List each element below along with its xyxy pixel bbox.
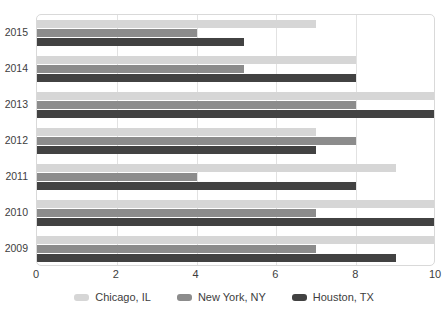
- x-tick-label-4: 4: [193, 268, 199, 280]
- bar-2013-houston-tx: [37, 110, 435, 118]
- plot-area: [36, 14, 435, 266]
- bar-2015-houston-tx: [37, 38, 244, 46]
- bar-2010-houston-tx: [37, 218, 435, 226]
- bar-2013-new-york-ny: [37, 101, 356, 109]
- legend-swatch-icon: [177, 294, 192, 301]
- bar-group-2014: [37, 56, 434, 82]
- bar-chart: 2015201420132012201120102009 0246810 Chi…: [0, 0, 448, 317]
- chart-title: [0, 0, 448, 5]
- x-tick-label-10: 10: [429, 268, 441, 280]
- legend-item-houston-tx[interactable]: Houston, TX: [292, 291, 374, 303]
- bar-group-2012: [37, 128, 434, 154]
- bar-2009-new-york-ny: [37, 245, 316, 253]
- y-tick-label-2010: 2010: [5, 206, 28, 218]
- legend-label: Chicago, IL: [95, 291, 151, 303]
- bar-group-2013: [37, 92, 434, 118]
- bar-2011-chicago-il: [37, 164, 396, 172]
- legend-label: New York, NY: [198, 291, 266, 303]
- bar-group-2011: [37, 164, 434, 190]
- bar-2015-chicago-il: [37, 20, 316, 28]
- bar-2011-new-york-ny: [37, 173, 197, 181]
- bar-2009-houston-tx: [37, 254, 396, 262]
- y-tick-label-2015: 2015: [5, 26, 28, 38]
- bar-2011-houston-tx: [37, 182, 356, 190]
- y-axis: 2015201420132012201120102009: [0, 14, 32, 266]
- bar-2010-chicago-il: [37, 200, 435, 208]
- bar-2013-chicago-il: [37, 92, 435, 100]
- bar-2012-chicago-il: [37, 128, 316, 136]
- bar-2012-new-york-ny: [37, 137, 356, 145]
- bar-2009-chicago-il: [37, 236, 435, 244]
- bar-group-2015: [37, 20, 434, 46]
- x-tick-label-6: 6: [272, 268, 278, 280]
- legend-item-new-york-ny[interactable]: New York, NY: [177, 291, 266, 303]
- bar-2014-houston-tx: [37, 74, 356, 82]
- legend-item-chicago-il[interactable]: Chicago, IL: [74, 291, 151, 303]
- x-axis: 0246810: [36, 268, 435, 286]
- y-tick-label-2014: 2014: [5, 62, 28, 74]
- y-tick-label-2009: 2009: [5, 242, 28, 254]
- chart-legend: Chicago, ILNew York, NYHouston, TX: [0, 291, 448, 303]
- x-tick-label-0: 0: [33, 268, 39, 280]
- y-tick-label-2011: 2011: [5, 170, 28, 182]
- x-tick-label-8: 8: [352, 268, 358, 280]
- bar-2014-new-york-ny: [37, 65, 244, 73]
- bar-group-2009: [37, 236, 434, 262]
- y-tick-label-2012: 2012: [5, 134, 28, 146]
- bar-group-2010: [37, 200, 434, 226]
- legend-label: Houston, TX: [313, 291, 374, 303]
- bar-2015-new-york-ny: [37, 29, 197, 37]
- y-tick-label-2013: 2013: [5, 98, 28, 110]
- bar-2014-chicago-il: [37, 56, 356, 64]
- x-tick-label-2: 2: [113, 268, 119, 280]
- bar-2012-houston-tx: [37, 146, 316, 154]
- legend-swatch-icon: [74, 294, 89, 301]
- bar-2010-new-york-ny: [37, 209, 316, 217]
- legend-swatch-icon: [292, 294, 307, 301]
